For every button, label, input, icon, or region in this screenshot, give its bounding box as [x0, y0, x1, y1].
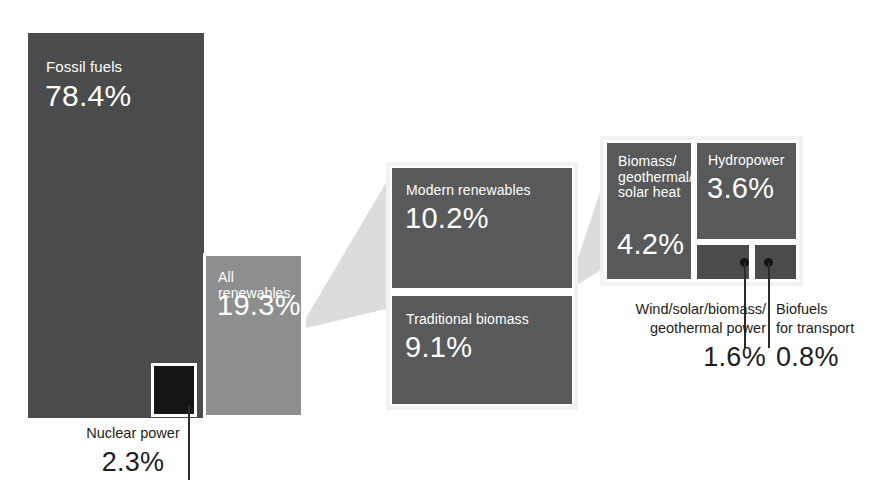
block-modern-renewables-value: 10.2%: [405, 202, 489, 234]
block-traditional-biomass[interactable]: Traditional biomass 9.1%: [392, 296, 572, 404]
block-modern-renewables-label: Modern renewables: [406, 183, 531, 199]
block-nuclear-power[interactable]: [151, 363, 197, 417]
callout-nuclear-power: Nuclear power 2.3%: [63, 424, 203, 478]
callout-wind-solar-label-line2: geothermal power: [650, 320, 766, 336]
block-modern-renewables[interactable]: Modern renewables 10.2%: [392, 168, 572, 288]
block-fossil-fuels-label: Fossil fuels: [46, 59, 122, 76]
callout-wind-solar-biomass-geothermal-power: Wind/solar/biomass/ geothermal power 1.6…: [588, 300, 766, 373]
connector-funnel-level1-to-level2: [300, 176, 390, 356]
callout-nuclear-power-value: 2.3%: [63, 447, 203, 478]
block-biomass-geothermal-solar-heat[interactable]: Biomass/ geothermal/ solar heat 4.2%: [607, 143, 691, 279]
callout-biofuels-value: 0.8%: [776, 342, 881, 373]
callout-nuclear-power-label: Nuclear power: [86, 425, 180, 441]
block-hydropower-value: 3.6%: [707, 172, 774, 204]
biofuels-leader-line: [768, 263, 770, 348]
block-fossil-fuels[interactable]: Fossil fuels 78.4%: [28, 33, 204, 418]
block-biomass-geothermal-solar-heat-value: 4.2%: [617, 228, 684, 260]
block-traditional-biomass-label: Traditional biomass: [406, 312, 529, 328]
bgs-label-line1: Biomass/: [618, 153, 676, 169]
callout-biofuels-for-transport: Biofuels for transport 0.8%: [776, 300, 881, 373]
block-traditional-biomass-value: 9.1%: [405, 331, 472, 363]
callout-biofuels-label-line1: Biofuels: [776, 301, 828, 317]
block-biomass-geothermal-solar-heat-label: Biomass/ geothermal/ solar heat: [618, 154, 693, 201]
callout-wind-solar-value: 1.6%: [588, 342, 766, 373]
callout-wind-solar-label-line1: Wind/solar/biomass/: [635, 301, 766, 317]
bgs-label-line2: geothermal/: [618, 169, 693, 185]
bgs-label-line3: solar heat: [618, 184, 680, 200]
callout-biofuels-label-line2: for transport: [776, 320, 854, 336]
block-fossil-fuels-value: 78.4%: [45, 79, 132, 113]
block-hydropower-label: Hydropower: [708, 153, 784, 169]
treemap-infographic: Fossil fuels 78.4% All renewables 19.3% …: [0, 0, 885, 497]
block-all-renewables-value: 19.3%: [217, 289, 301, 321]
block-biofuels-for-transport[interactable]: [755, 245, 796, 279]
block-all-renewables[interactable]: All renewables 19.3%: [203, 253, 304, 418]
block-hydropower[interactable]: Hydropower 3.6%: [697, 143, 796, 239]
